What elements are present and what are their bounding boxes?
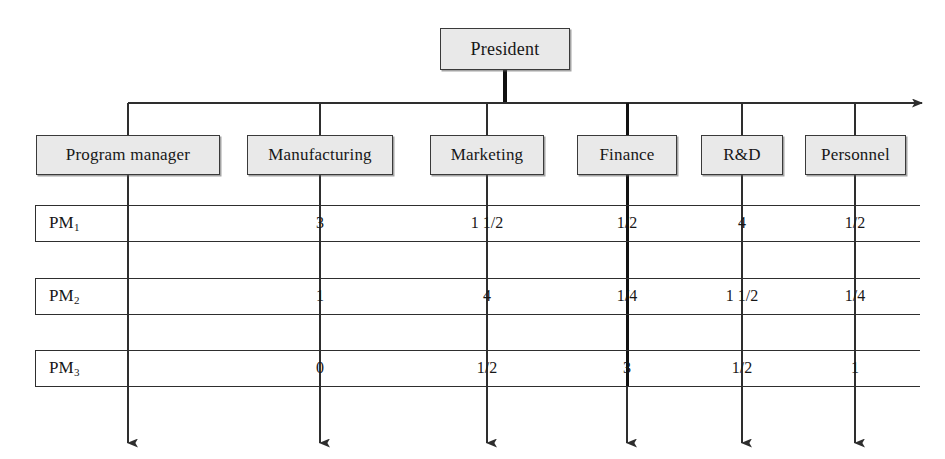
matrix-cell-r1-c2: 4 xyxy=(483,287,491,305)
row-bar-left-cap xyxy=(35,278,36,316)
matrix-row-bar-1[interactable] xyxy=(35,278,920,315)
department-label: R&D xyxy=(723,145,760,165)
matrix-cell-r0-c4: 4 xyxy=(738,214,746,232)
matrix-cell-r1-c3: 1/4 xyxy=(617,287,637,305)
row-label-text: PM xyxy=(49,286,74,305)
row-label-2: PM3 xyxy=(49,358,79,378)
matrix-cell-r1-c5: 1/4 xyxy=(845,287,865,305)
department-box-5[interactable]: Personnel xyxy=(805,135,906,175)
diagram-canvas: President Program managerManufacturingMa… xyxy=(0,0,945,459)
matrix-cell-r0-c1: 3 xyxy=(316,214,324,232)
department-label: Program manager xyxy=(66,145,190,165)
department-box-4[interactable]: R&D xyxy=(701,135,783,175)
row-label-text: PM xyxy=(49,358,74,377)
department-box-2[interactable]: Marketing xyxy=(430,135,544,175)
matrix-cell-r2-c3: 3 xyxy=(623,359,631,377)
matrix-cell-r2-c2: 1/2 xyxy=(477,359,497,377)
department-box-1[interactable]: Manufacturing xyxy=(247,135,393,175)
matrix-cell-r2-c1: 0 xyxy=(316,359,324,377)
president-label: President xyxy=(471,39,540,60)
matrix-cell-r0-c2: 1 1/2 xyxy=(471,214,503,232)
row-bar-left-cap xyxy=(35,205,36,243)
department-label: Marketing xyxy=(451,145,524,165)
matrix-cell-r1-c1: 1 xyxy=(316,287,324,305)
row-label-text: PM xyxy=(49,213,74,232)
row-label-subscript: 3 xyxy=(74,366,80,378)
matrix-cell-r2-c5: 1 xyxy=(851,359,859,377)
row-label-1: PM2 xyxy=(49,286,79,306)
department-label: Manufacturing xyxy=(268,145,372,165)
row-label-0: PM1 xyxy=(49,213,79,233)
matrix-cell-r2-c4: 1/2 xyxy=(732,359,752,377)
row-label-subscript: 2 xyxy=(74,294,80,306)
row-label-subscript: 1 xyxy=(74,221,80,233)
department-label: Finance xyxy=(599,145,654,165)
matrix-cell-r0-c3: 1/2 xyxy=(617,214,637,232)
department-label: Personnel xyxy=(821,145,890,165)
matrix-cell-r1-c4: 1 1/2 xyxy=(726,287,758,305)
president-box[interactable]: President xyxy=(440,28,570,70)
department-box-3[interactable]: Finance xyxy=(577,135,677,175)
row-bar-left-cap xyxy=(35,350,36,388)
matrix-cell-r0-c5: 1/2 xyxy=(845,214,865,232)
department-box-0[interactable]: Program manager xyxy=(36,135,220,175)
